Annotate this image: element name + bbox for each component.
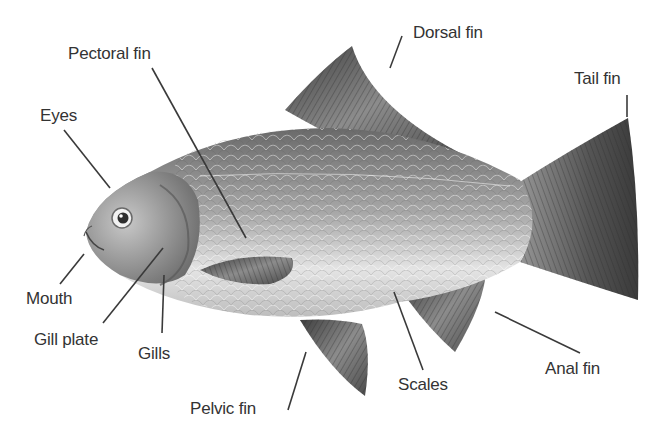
fish-head xyxy=(84,172,200,285)
fish-anatomy-diagram: Pectoral fin Dorsal fin Tail fin Eyes Mo… xyxy=(0,0,664,435)
tail-fin-shape xyxy=(515,118,638,300)
label-mouth: Mouth xyxy=(26,290,72,307)
label-eyes: Eyes xyxy=(40,107,77,124)
eye-shape xyxy=(112,208,132,228)
label-pectoral-fin: Pectoral fin xyxy=(68,45,151,62)
leader-line-mouth xyxy=(60,254,84,284)
label-anal-fin: Anal fin xyxy=(545,360,600,377)
leader-line-pelvic-fin xyxy=(288,352,306,410)
label-tail-fin: Tail fin xyxy=(574,70,621,87)
pelvic-fin-shape xyxy=(300,320,368,397)
label-pelvic-fin: Pelvic fin xyxy=(190,400,256,417)
leader-line-dorsal-fin xyxy=(390,36,402,68)
label-scales: Scales xyxy=(398,376,448,393)
leader-line-anal-fin xyxy=(495,312,580,353)
leader-line-eyes xyxy=(64,130,110,188)
label-dorsal-fin: Dorsal fin xyxy=(413,24,483,41)
label-gills: Gills xyxy=(138,345,170,362)
label-gill-plate: Gill plate xyxy=(34,331,98,348)
